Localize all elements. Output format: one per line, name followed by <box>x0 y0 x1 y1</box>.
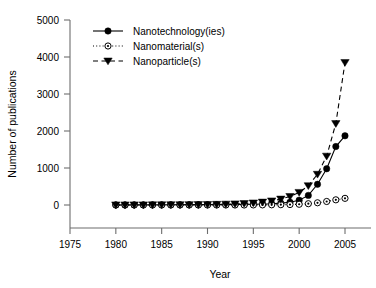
marker-filled-circle <box>105 28 111 34</box>
legend-label: Nanomaterial(s) <box>133 41 204 52</box>
marker-center-dot <box>280 204 282 206</box>
marker-center-dot <box>307 203 309 205</box>
marker-filled-triangle <box>322 153 330 160</box>
legend-label: Nanoparticle(s) <box>133 56 201 67</box>
marker-filled-circle <box>305 192 311 198</box>
marker-center-dot <box>289 203 291 205</box>
y-axis-tick-labels: 010002000300040005000 <box>37 15 60 211</box>
marker-center-dot <box>344 197 346 199</box>
marker-center-dot <box>107 45 109 47</box>
y-tick-label: 1000 <box>37 163 60 174</box>
marker-filled-triangle <box>295 189 303 196</box>
chart-legend: Nanotechnology(ies)Nanomaterial(s)Nanopa… <box>93 26 225 67</box>
y-tick-label: 0 <box>53 200 59 211</box>
marker-center-dot <box>326 200 328 202</box>
publications-line-chart: 010002000300040005000 197519801985199019… <box>0 0 376 288</box>
legend-label: Nanotechnology(ies) <box>133 26 225 37</box>
marker-center-dot <box>298 203 300 205</box>
marker-filled-triangle <box>313 171 321 178</box>
x-tick-label: 1975 <box>59 239 82 250</box>
marker-filled-circle <box>314 181 320 187</box>
legend-entry-2: Nanoparticle(s) <box>93 56 201 67</box>
x-tick-label: 1995 <box>242 239 265 250</box>
x-axis-ticks <box>70 228 345 234</box>
legend-entry-1: Nanomaterial(s) <box>93 41 204 52</box>
marker-filled-triangle <box>332 121 340 128</box>
series-markers-0 <box>113 133 349 209</box>
y-tick-label: 2000 <box>37 126 60 137</box>
x-tick-label: 2000 <box>288 239 311 250</box>
x-axis-title: Year <box>209 268 231 280</box>
x-tick-label: 1980 <box>105 239 128 250</box>
y-tick-label: 4000 <box>37 52 60 63</box>
marker-filled-triangle <box>341 60 349 67</box>
x-tick-label: 1990 <box>196 239 219 250</box>
y-axis-ticks <box>64 20 70 205</box>
y-tick-label: 5000 <box>37 15 60 26</box>
chart-page: 010002000300040005000 197519801985199019… <box>0 0 376 288</box>
x-axis-tick-labels: 1975198019851990199520002005 <box>59 239 357 250</box>
marker-filled-circle <box>342 133 348 139</box>
series-markers <box>112 60 350 209</box>
y-tick-label: 3000 <box>37 89 60 100</box>
marker-filled-circle <box>323 166 329 172</box>
marker-filled-circle <box>333 143 339 149</box>
x-tick-label: 2005 <box>334 239 357 250</box>
marker-filled-triangle <box>304 183 312 190</box>
marker-center-dot <box>316 202 318 204</box>
legend-entry-0: Nanotechnology(ies) <box>93 26 225 37</box>
series-markers-2 <box>112 60 350 209</box>
x-tick-label: 1985 <box>151 239 174 250</box>
marker-center-dot <box>335 199 337 201</box>
y-axis-title: Number of publications <box>6 70 18 177</box>
